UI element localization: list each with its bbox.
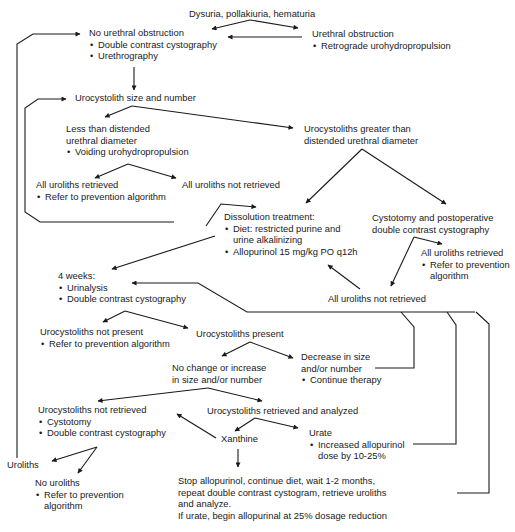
node-uroliths: Uroliths (7, 459, 39, 471)
arrow-less-to-not-retrieved (128, 164, 176, 178)
node-title: Urate (309, 427, 332, 438)
arrow-present-to-no-change (222, 342, 250, 356)
arrow-xanthine-to-uc-not-retrieved (177, 414, 216, 438)
node-title: Urocystolith size and number (75, 92, 196, 103)
node-title-line: distended urethral diameter (304, 135, 418, 147)
arrow-greater-to-cystotomy (362, 149, 446, 204)
arrow-dissolution-to-4weeks (112, 236, 215, 269)
line-urate-return (413, 312, 456, 444)
node-all-uroliths-retrieved-1: All uroliths retrieved Refer to preventi… (36, 179, 166, 202)
node-title: Urethral obstruction (312, 28, 394, 39)
node-urate: Urate Increased allopurinol dose by 10-2… (309, 427, 405, 462)
node-title: All uroliths not retrieved (182, 179, 280, 190)
node-title-line: Decrease in size (301, 351, 381, 363)
node-title-line: Urocystoliths greater than (304, 123, 418, 135)
bullet: Urinalysis (58, 282, 186, 294)
arrow-size-to-less (105, 106, 132, 117)
node-title-line: double contrast cystography (372, 224, 493, 236)
node-title-line: No change or increase (172, 362, 266, 374)
node-title: Xanthine (221, 433, 258, 444)
node-title-line: urethral diameter (66, 135, 189, 147)
bullet: Urethrography (89, 50, 217, 62)
node-title-line: and/or number (301, 363, 381, 375)
node-stop-allopurinol: Stop allopurinol, continue diet, wait 1-… (178, 475, 387, 521)
node-no-urethral-obstruction: No urethral obstruction Double contrast … (89, 27, 217, 62)
node-title: Urocystoliths retrieved and analyzed (207, 405, 358, 416)
node-less-than-diameter: Less than distended urethral diameter Vo… (66, 123, 189, 158)
node-greater-than-diameter: Urocystoliths greater than distended ure… (304, 123, 418, 146)
arrow-greater-to-dissolution (306, 149, 362, 203)
bullet: Refer to prevention algorithm (36, 191, 166, 203)
bullet: Refer to prevention algorithm (421, 259, 510, 282)
node-cystotomy-postoperative: Cystotomy and postoperative double contr… (372, 212, 493, 235)
node-title-line: Cystotomy and postoperative (372, 212, 493, 224)
node-text-line: Stop allopurinol, continue diet, wait 1-… (178, 475, 387, 487)
node-title: All uroliths retrieved (421, 247, 503, 258)
node-title: Urocystoliths not present (40, 326, 143, 337)
arrow-no-change-to-uc-retrieved (208, 388, 262, 401)
bullet: Increased allopurinol dose by 10-25% (309, 439, 405, 462)
node-title: Dysuria, pollakiuria, hematuria (189, 8, 315, 19)
bullet: Refer to prevention algorithm (40, 338, 170, 350)
node-title: Urocystoliths not retrieved (38, 404, 146, 415)
node-title: Urocystoliths present (196, 328, 284, 339)
node-urocystolith-size-number: Urocystolith size and number (75, 92, 196, 104)
arrow-4weeks-to-not-present (103, 311, 125, 322)
node-title: Uroliths (7, 459, 39, 470)
node-title: No uroliths (35, 477, 80, 488)
arrow-uc-retrieved-to-urate (255, 418, 298, 428)
node-decrease-size: Decrease in size and/or number Continue … (301, 351, 381, 386)
bullet: Double contrast cystography (38, 427, 166, 439)
bullet: Refer to prevention algorithm (35, 489, 124, 512)
node-title-line: in size and/or number (172, 374, 266, 386)
arrow-no-change-to-uc-not-retrieved (98, 388, 208, 401)
node-title: All uroliths not retrieved (328, 293, 426, 304)
node-xanthine: Xanthine (221, 433, 258, 445)
bullet: Retrograde urohydropropulsion (312, 40, 451, 52)
arrow-start-to-obstruction (250, 20, 298, 28)
node-four-weeks: 4 weeks: Urinalysis Double contrast cyst… (58, 270, 186, 305)
node-urocystoliths-not-present: Urocystoliths not present Refer to preve… (40, 326, 170, 349)
bullet: Voiding urohydropropulsion (66, 146, 189, 158)
arrow-cystotomy-to-retrieved (414, 237, 442, 244)
node-urethral-obstruction: Urethral obstruction Retrograde urohydro… (312, 28, 451, 51)
node-no-change-increase: No change or increase in size and/or num… (172, 362, 266, 385)
node-title-line: Less than distended (66, 123, 189, 135)
arrow-cystotomy-to-not-retrieved (391, 237, 414, 286)
node-text-line: repeat double contrast cystogram, retrie… (178, 487, 387, 499)
arrow-start-to-no-obstruction (212, 20, 250, 29)
arrow-present-to-decrease (250, 342, 293, 358)
loop-retrieved-to-size (25, 99, 174, 222)
bullet: Diet: restricted purine and urine alkali… (224, 223, 358, 246)
node-text-line: If urate, begin allopurinal at 25% dosag… (178, 510, 387, 522)
node-text-line: and analyze. (178, 498, 387, 510)
bullet: Continue therapy (301, 374, 381, 386)
node-all-uroliths-retrieved-2: All uroliths retrieved Refer to preventi… (421, 247, 510, 282)
line-stop-return (457, 312, 489, 493)
node-no-uroliths: No uroliths Refer to prevention algorith… (35, 477, 124, 512)
node-urocystoliths-present: Urocystoliths present (196, 328, 284, 340)
node-title: 4 weeks: (58, 270, 95, 281)
loop-uroliths-to-no-obstruction (17, 34, 80, 458)
arrow-not-retrieved2-to-dissolution (328, 265, 360, 289)
node-title: All uroliths retrieved (36, 179, 118, 190)
bullet: Allopurinol 15 mg/kg PO q12h (224, 246, 358, 258)
bullet: Cystotomy (38, 416, 166, 428)
node-start: Dysuria, pollakiuria, hematuria (189, 8, 315, 20)
bullet: Double contrast cystography (89, 39, 217, 51)
node-title: Dissolution treatment: (224, 211, 315, 222)
arrow-uc-to-uroliths (52, 447, 97, 461)
bullet: Double contrast cystography (58, 293, 186, 305)
arrow-less-to-retrieved (95, 164, 128, 178)
node-title: No urethral obstruction (89, 27, 184, 38)
node-all-uroliths-not-retrieved-2: All uroliths not retrieved (328, 293, 426, 305)
node-dissolution-treatment: Dissolution treatment: Diet: restricted … (224, 211, 358, 257)
arrow-uc-to-no-uroliths (78, 447, 97, 473)
node-urocystoliths-not-retrieved: Urocystoliths not retrieved Cystotomy Do… (38, 404, 166, 439)
arrow-uc-retrieved-to-xanthine (235, 418, 255, 431)
node-urocystoliths-retrieved-analyzed: Urocystoliths retrieved and analyzed (207, 405, 358, 417)
node-all-uroliths-not-retrieved-1: All uroliths not retrieved (182, 179, 280, 191)
